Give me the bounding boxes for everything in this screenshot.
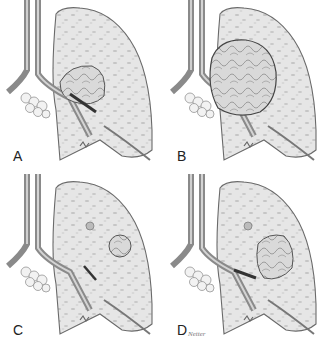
panel-label-c: C	[13, 322, 23, 338]
panel-label-d: D	[177, 322, 187, 338]
panel-a: A	[0, 0, 163, 174]
panel-b: B	[164, 0, 327, 174]
tumor-b	[210, 40, 276, 115]
panel-label-b: B	[177, 148, 186, 164]
tumor-d	[257, 235, 293, 279]
lung-illustration-b	[164, 0, 327, 174]
medical-illustration-figure: A B C D Netter	[0, 0, 327, 348]
lung-illustration-d	[164, 174, 327, 348]
panel-label-a: A	[13, 148, 22, 164]
lung-illustration-a	[0, 0, 163, 174]
artist-signature: Netter	[188, 330, 206, 338]
panel-c: C	[0, 174, 163, 348]
nodule-c	[109, 235, 131, 257]
panel-d: D Netter	[164, 174, 327, 348]
lung-illustration-c	[0, 174, 163, 348]
